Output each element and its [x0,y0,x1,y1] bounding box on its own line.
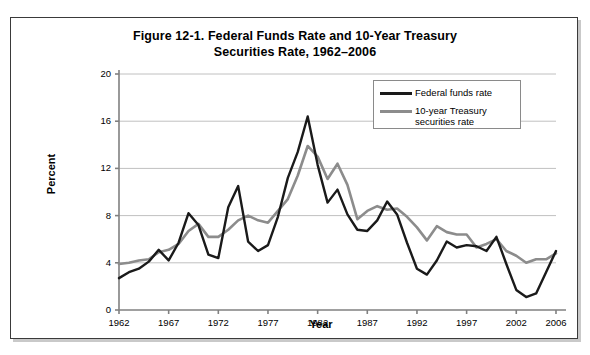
legend-swatch-treasury [380,110,412,113]
legend-item-federal-funds: Federal funds rate [380,87,492,98]
data-series [119,116,556,297]
legend-swatch-federal-funds [380,92,412,95]
legend-label-federal-funds: Federal funds rate [415,87,492,98]
legend-label-treasury-line-2: securities rate [415,116,474,127]
legend-item-treasury: 10-year Treasury securities rate [380,105,487,127]
legend-label-treasury: 10-year Treasury securities rate [415,105,487,127]
legend-label-treasury-line-1: 10-year Treasury [415,105,487,116]
chart-legend: Federal funds rate 10-year Treasury secu… [373,80,521,129]
plot-area: Percent Year 048121620 19621967197219771… [11,18,579,340]
chart-canvas [11,18,579,340]
figure-container: Figure 12-1. Federal Funds Rate and 10-Y… [10,17,578,339]
